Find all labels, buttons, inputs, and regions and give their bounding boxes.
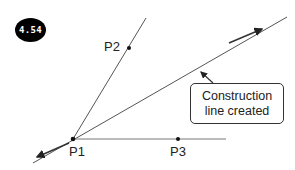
point-label-p1: P1 xyxy=(69,145,85,158)
direction-arrow-lower xyxy=(37,143,69,157)
point-p1-dot xyxy=(71,137,76,142)
callout-line-2: line created xyxy=(205,104,270,119)
callout-line-1: Construction xyxy=(202,89,272,104)
point-label-p2: P2 xyxy=(104,40,120,53)
callout-box: Construction line created xyxy=(190,83,284,124)
point-label-p3: P3 xyxy=(170,145,186,158)
callout-leader-arrow xyxy=(201,72,213,83)
point-p2-dot xyxy=(127,46,131,50)
point-p3-dot xyxy=(176,137,180,141)
line-p1-p2 xyxy=(73,18,146,139)
figure-number-badge: 4.54 xyxy=(15,18,46,42)
